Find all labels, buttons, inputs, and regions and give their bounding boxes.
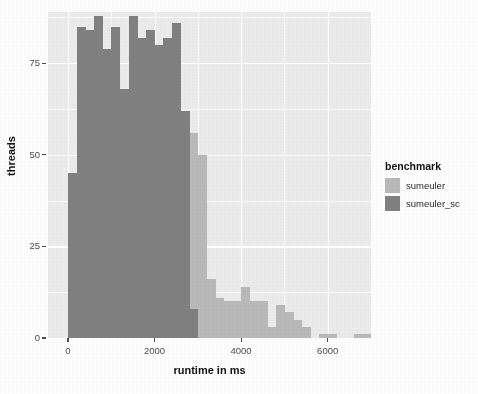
x-tick-label: 2000: [125, 345, 185, 356]
y-tick-label: 25: [4, 240, 40, 251]
histogram-bar: [302, 327, 311, 338]
legend-color-swatch: [385, 196, 400, 211]
y-tick-mark: [42, 337, 46, 338]
chart-figure: 02550750200040006000 runtime in ms threa…: [0, 0, 478, 394]
legend-item: sumeuler_sc: [385, 196, 477, 211]
legend-item-label: sumeuler: [406, 180, 445, 191]
x-tick-mark: [154, 338, 155, 342]
histogram-bar: [180, 111, 189, 338]
histogram-bar: [362, 334, 371, 338]
y-tick-mark: [42, 154, 46, 155]
x-tick-mark: [241, 338, 242, 342]
y-tick-label: 0: [4, 332, 40, 343]
x-tick-label: 0: [38, 345, 98, 356]
y-axis-title: threads: [5, 121, 17, 191]
y-tick-mark: [42, 63, 46, 64]
x-tick-label: 4000: [211, 345, 271, 356]
x-tick-mark: [327, 338, 328, 342]
legend-item: sumeuler: [385, 178, 477, 193]
y-tick-mark: [42, 246, 46, 247]
legend-title: benchmark: [385, 160, 477, 172]
grid-line: [328, 12, 329, 338]
x-tick-mark: [67, 338, 68, 342]
x-tick-label: 6000: [298, 345, 358, 356]
histogram-bar: [328, 334, 337, 338]
legend-color-swatch: [385, 178, 400, 193]
legend: benchmark sumeulersumeuler_sc: [385, 160, 477, 214]
legend-item-label: sumeuler_sc: [406, 198, 460, 209]
plot-panel: [48, 12, 371, 338]
histogram-bar: [189, 309, 198, 338]
legend-items: sumeulersumeuler_sc: [385, 178, 477, 211]
y-tick-label: 75: [4, 57, 40, 68]
grid-line: [284, 12, 285, 338]
x-axis-title: runtime in ms: [48, 364, 371, 376]
